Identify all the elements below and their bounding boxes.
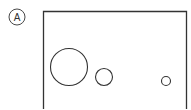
figure-label: A	[9, 9, 25, 25]
frame-box	[44, 12, 187, 110]
figure-label-text: A	[14, 12, 21, 23]
figure-a-diagram: A	[0, 0, 191, 109]
medium-circle	[96, 69, 113, 86]
large-circle	[51, 49, 88, 86]
small-circle	[162, 77, 171, 86]
